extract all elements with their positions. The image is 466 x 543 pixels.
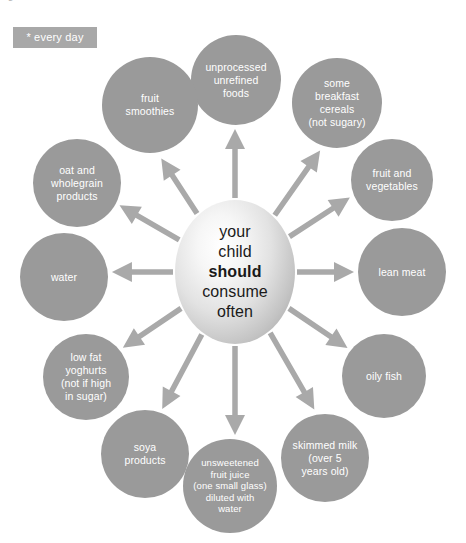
node-some-breakfast-cereals: some breakfast cereals (not sugary) bbox=[292, 58, 382, 148]
hub-your-child-should-consume-often: yourchildshouldconsumeoften bbox=[175, 200, 295, 344]
node-unprocessed-unrefined-foods: unprocessed unrefined foods bbox=[191, 35, 281, 125]
arrow-to-fruit-and-vegetables bbox=[288, 197, 350, 239]
arrow-to-oily-fish bbox=[287, 306, 347, 348]
node-fruit-and-vegetables: fruit and vegetables bbox=[351, 139, 433, 221]
hub-line-4: often bbox=[217, 302, 253, 322]
every-day-badge: * every day bbox=[13, 27, 97, 48]
node-unsweetened-fruit-juice: unsweetened fruit juice (one small glass… bbox=[183, 439, 277, 533]
node-skimmed-milk: skimmed milk (over 5 years old) bbox=[281, 414, 369, 502]
arrow-to-low-fat-yoghurts bbox=[123, 306, 183, 348]
hub-line-1: child bbox=[218, 242, 251, 262]
hub-line-3: consume bbox=[202, 282, 268, 302]
node-fruit-smoothies: fruit smoothies bbox=[102, 57, 198, 153]
node-label-skimmed-milk: skimmed milk (over 5 years old) bbox=[287, 439, 364, 478]
arrow-to-water bbox=[112, 262, 173, 282]
node-label-unsweetened-fruit-juice: unsweetened fruit juice (one small glass… bbox=[187, 457, 273, 515]
node-label-low-fat-yoghurts: low fat yoghurts (not if high in sugar) bbox=[55, 351, 117, 403]
node-label-oily-fish: oily fish bbox=[360, 370, 408, 383]
arrow-to-skimmed-milk bbox=[268, 332, 315, 410]
hub-line-emphasis: should bbox=[208, 262, 261, 282]
arrow-to-soya-products bbox=[162, 333, 204, 409]
node-oily-fish: oily fish bbox=[342, 334, 426, 418]
node-label-fruit-and-vegetables: fruit and vegetables bbox=[360, 167, 424, 193]
arrow-to-unprocessed-unrefined-foods bbox=[225, 129, 245, 198]
node-lean-meat: lean meat bbox=[358, 228, 446, 316]
arrow-to-lean-meat bbox=[297, 262, 354, 282]
node-soya-products: soya products bbox=[101, 410, 189, 498]
node-label-lean-meat: lean meat bbox=[372, 266, 431, 279]
node-label-water: water bbox=[45, 271, 83, 284]
node-label-oat-and-wholegrain-products: oat and wholegrain products bbox=[45, 164, 109, 203]
node-label-unprocessed-unrefined-foods: unprocessed unrefined foods bbox=[199, 61, 272, 100]
arrow-to-unsweetened-fruit-juice bbox=[225, 346, 245, 435]
arrow-to-fruit-smoothies bbox=[161, 158, 199, 215]
arrow-to-oat-and-wholegrain-products bbox=[120, 205, 181, 242]
node-label-fruit-smoothies: fruit smoothies bbox=[120, 92, 181, 118]
node-oat-and-wholegrain-products: oat and wholegrain products bbox=[33, 139, 121, 227]
node-water: water bbox=[20, 233, 108, 321]
hub-line-0: your bbox=[219, 222, 251, 242]
node-label-some-breakfast-cereals: some breakfast cereals (not sugary) bbox=[302, 77, 371, 129]
diagram-canvas: your child should * every day yourchilds… bbox=[0, 0, 466, 543]
arrow-to-some-breakfast-cereals bbox=[272, 150, 320, 216]
node-label-soya-products: soya products bbox=[118, 441, 171, 467]
node-low-fat-yoghurts: low fat yoghurts (not if high in sugar) bbox=[43, 334, 129, 420]
page-title: your child should bbox=[8, 0, 308, 5]
